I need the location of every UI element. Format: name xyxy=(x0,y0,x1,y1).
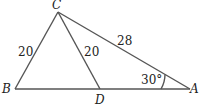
angle-a-label: 30° xyxy=(141,73,162,87)
bc-length-label: 20 xyxy=(18,45,33,59)
point-c-label: C xyxy=(52,0,61,12)
segment-ca xyxy=(58,12,190,89)
point-a-label: A xyxy=(189,82,199,96)
point-d-label: D xyxy=(94,93,105,107)
triangle-diagram: C B D A 20 20 28 30° xyxy=(0,0,201,108)
point-b-label: B xyxy=(1,82,11,96)
cd-length-label: 20 xyxy=(84,45,99,59)
ca-length-label: 28 xyxy=(117,34,132,48)
